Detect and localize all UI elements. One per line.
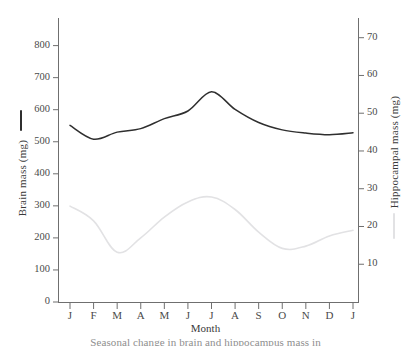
x-axis-tick-label: J (62, 309, 78, 321)
legend-marker-hippocampal-mass-icon (393, 213, 395, 239)
right-axis-tick-label: 60 (367, 68, 393, 79)
x-axis-tick-label: M (156, 309, 172, 321)
right-axis-tick-label: 30 (367, 182, 393, 193)
x-axis-tick-label: A (227, 309, 243, 321)
right-axis-ticks (359, 38, 365, 265)
figure-caption: Seasonal change in brain and hippocampus… (0, 336, 411, 346)
left-axis-ticks (53, 46, 59, 302)
x-axis-tick-label: M (109, 309, 125, 321)
x-axis-tick-label: J (204, 309, 220, 321)
chart-figure: Brain mass (mg) Hippocampal mass (mg) Mo… (0, 0, 411, 346)
right-axis-tick-label: 40 (367, 144, 393, 155)
left-axis-tick-label: 200 (10, 231, 50, 242)
left-axis-tick-label: 300 (10, 199, 50, 210)
x-axis-tick-label: F (86, 309, 102, 321)
x-axis-tick-label: O (274, 309, 290, 321)
x-axis-tick-label: A (133, 309, 149, 321)
right-axis-tick-label: 50 (367, 106, 393, 117)
x-axis-title: Month (0, 322, 411, 334)
right-axis-tick-label: 20 (367, 219, 393, 230)
right-axis-tick-label: 70 (367, 31, 393, 42)
left-axis-tick-label: 400 (10, 167, 50, 178)
series-line-brain-mass (70, 92, 353, 140)
left-axis-tick-label: 0 (10, 295, 50, 306)
left-axis-tick-label: 800 (10, 39, 50, 50)
left-axis-tick-label: 600 (10, 103, 50, 114)
left-axis-tick-label: 500 (10, 135, 50, 146)
left-axis-tick-label: 100 (10, 263, 50, 274)
x-axis-tick-label: J (345, 309, 361, 321)
series-line-hippocampal-mass (70, 197, 353, 253)
x-axis-tick-label: J (180, 309, 196, 321)
x-axis-tick-label: D (321, 309, 337, 321)
left-axis-tick-label: 700 (10, 71, 50, 82)
right-axis-tick-label: 10 (367, 257, 393, 268)
chart-plot-area (0, 0, 411, 346)
x-axis-tick-label: N (298, 309, 314, 321)
x-axis-tick-label: S (251, 309, 267, 321)
